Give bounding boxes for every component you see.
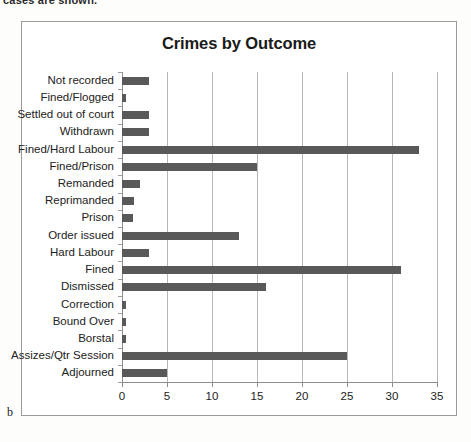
bar-9[interactable] [122,232,239,240]
x-tick-label-10: 10 [206,390,219,402]
y-tick-11 [118,261,122,262]
category-label-6: Remanded [58,178,114,190]
figure-caption: b [7,405,13,420]
category-label-3: Withdrawn [60,127,114,139]
x-tick-label-30: 30 [386,390,399,402]
gridline-10 [212,72,213,382]
category-label-7: Reprimanded [45,195,114,207]
category-label-14: Bound Over [53,316,114,328]
bar-11[interactable] [122,266,401,274]
plot-area: 05101520253035 Not recordedFined/Flogged… [122,72,437,382]
gridline-25 [347,72,348,382]
x-tick-35 [437,382,438,387]
y-tick-3 [118,124,122,125]
y-tick-5 [118,158,122,159]
y-tick-16 [118,348,122,349]
y-tick-17 [118,365,122,366]
y-tick-8 [118,210,122,211]
bar-10[interactable] [122,249,149,257]
category-label-13: Correction [61,299,114,311]
gridline-20 [302,72,303,382]
y-tick-6 [118,175,122,176]
category-label-0: Not recorded [48,75,114,87]
scanned-page: cases are shown. Crimes by Outcome 05101… [0,0,471,442]
chart-title: Crimes by Outcome [22,34,456,53]
gridline-15 [257,72,258,382]
x-tick-label-20: 20 [296,390,309,402]
x-tick-10 [212,382,213,387]
category-label-5: Fined/Prison [49,161,114,173]
category-label-10: Hard Labour [50,247,114,259]
bar-4[interactable] [122,146,419,154]
x-axis-line [122,382,437,383]
y-tick-12 [118,279,122,280]
chart-frame: Crimes by Outcome 05101520253035 Not rec… [21,21,457,416]
category-label-11: Fined [85,264,114,276]
y-tick-end [118,382,122,383]
bar-0[interactable] [122,77,149,85]
x-tick-5 [167,382,168,387]
category-label-17: Adjourned [62,368,114,380]
category-label-12: Dismissed [61,282,114,294]
y-tick-10 [118,244,122,245]
y-tick-9 [118,227,122,228]
x-tick-15 [257,382,258,387]
gridline-30 [392,72,393,382]
bar-12[interactable] [122,283,266,291]
y-tick-7 [118,193,122,194]
x-tick-label-5: 5 [164,390,170,402]
y-tick-1 [118,89,122,90]
bar-15[interactable] [122,335,126,343]
category-label-15: Borstal [78,333,114,345]
gridline-35 [437,72,438,382]
x-tick-30 [392,382,393,387]
bar-16[interactable] [122,352,347,360]
bar-8[interactable] [122,214,133,222]
bar-17[interactable] [122,369,167,377]
x-tick-label-15: 15 [251,390,264,402]
x-tick-label-35: 35 [431,390,444,402]
x-tick-label-25: 25 [341,390,354,402]
x-tick-20 [302,382,303,387]
bar-14[interactable] [122,318,126,326]
x-tick-label-0: 0 [119,390,125,402]
x-tick-25 [347,382,348,387]
bar-3[interactable] [122,128,149,136]
bar-13[interactable] [122,301,126,309]
y-tick-4 [118,141,122,142]
category-label-1: Fined/Flogged [40,92,114,104]
y-tick-14 [118,313,122,314]
bar-1[interactable] [122,94,126,102]
bar-2[interactable] [122,111,149,119]
category-label-16: Assizes/Qtr Session [11,350,114,362]
y-tick-2 [118,106,122,107]
bar-7[interactable] [122,197,134,205]
category-label-8: Prison [81,213,114,225]
cut-off-body-text: cases are shown. [3,0,173,8]
bar-5[interactable] [122,163,257,171]
y-tick-15 [118,330,122,331]
bar-6[interactable] [122,180,140,188]
category-label-4: Fined/Hard Labour [18,144,114,156]
category-label-9: Order issued [48,230,114,242]
gridline-5 [167,72,168,382]
y-tick-13 [118,296,122,297]
category-label-2: Settled out of court [17,109,114,121]
y-tick-0 [118,72,122,73]
x-tick-0 [122,382,123,387]
